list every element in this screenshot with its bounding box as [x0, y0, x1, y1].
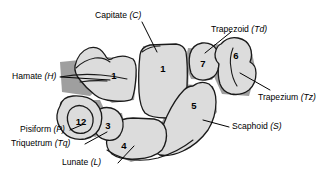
label-pisiform-abbr: (P) — [53, 124, 64, 134]
carpal-bones-figure: 1 1 7 6 5 4 — [0, 0, 323, 176]
label-pisiform-name: Pisiform — [20, 124, 51, 134]
label-scaphoid-name: Scaphoid — [232, 121, 268, 131]
label-trapezoid-abbr: (Td) — [251, 24, 267, 34]
label-triquetrum: Triquetrum (Tq) — [11, 139, 70, 148]
anatomy-illustration: 1 1 7 6 5 4 — [0, 0, 323, 176]
label-scaphoid-abbr: (S) — [270, 121, 281, 131]
bone-number-trapezium: 6 — [233, 50, 238, 61]
label-hamate-abbr: (H) — [44, 71, 56, 81]
label-trapezium-name: Trapezium — [258, 92, 298, 102]
bone-number-scaphoid: 5 — [191, 100, 197, 111]
bone-number-trapezoid: 7 — [200, 58, 205, 69]
label-triquetrum-name: Triquetrum — [11, 138, 52, 148]
bone-number-lunate: 4 — [121, 140, 127, 151]
bone-number-capitate: 1 — [160, 63, 166, 74]
label-capitate-name: Capitate — [95, 10, 127, 20]
label-lunate: Lunate (L) — [62, 158, 101, 167]
label-lunate-name: Lunate — [62, 157, 88, 167]
label-triquetrum-abbr: (Tq) — [55, 138, 71, 148]
bone-number-hamate: 1 — [111, 70, 117, 81]
label-scaphoid: Scaphoid (S) — [232, 122, 282, 131]
label-lunate-abbr: (L) — [91, 157, 102, 167]
bone-trapezium[interactable]: 6 — [215, 38, 256, 95]
label-trapezium: Trapezium (Tz) — [258, 93, 316, 102]
label-capitate: Capitate (C) — [95, 11, 141, 20]
label-trapezium-abbr: (Tz) — [301, 92, 316, 102]
label-hamate: Hamate (H) — [12, 72, 56, 81]
label-capitate-abbr: (C) — [129, 10, 141, 20]
label-pisiform: Pisiform (P) — [20, 125, 65, 134]
bone-number-triquetrum: 3 — [105, 120, 110, 131]
label-hamate-name: Hamate — [12, 71, 42, 81]
bone-trapezoid[interactable]: 7 — [189, 43, 219, 80]
label-trapezoid: Trapezoid (Td) — [211, 25, 267, 34]
label-trapezoid-name: Trapezoid — [211, 24, 249, 34]
